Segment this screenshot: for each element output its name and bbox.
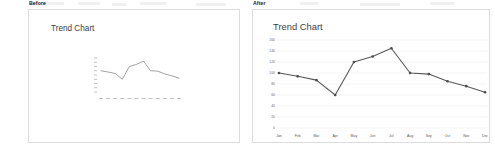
svg-text:May: May: [351, 134, 358, 138]
svg-text:Oct: Oct: [445, 134, 450, 138]
mini-trend-line: [101, 61, 179, 79]
before-chart-title: Trend Chart: [51, 24, 94, 33]
mini-x-axis-dots: [99, 98, 181, 99]
before-label: Before: [29, 0, 240, 7]
svg-text:160: 160: [269, 38, 275, 42]
svg-text:Apr: Apr: [332, 134, 338, 138]
before-panel: Before Trend Chart: [28, 0, 240, 143]
svg-text:0: 0: [273, 126, 275, 130]
svg-text:100: 100: [269, 71, 275, 75]
x-axis-tick-labels: JanFebMarAprMayJunJulAugSepOctNovDec: [276, 134, 488, 138]
svg-text:Jul: Jul: [389, 134, 394, 138]
before-mini-chart-svg: [91, 52, 183, 104]
after-panel: After Trend Chart 020406080100120140160 …: [252, 0, 490, 143]
trend-data-points: [278, 47, 487, 96]
after-trend-chart-svg: 020406080100120140160 JanFebMarAprMayJun…: [253, 10, 491, 144]
svg-text:Mar: Mar: [313, 134, 320, 138]
svg-text:80: 80: [271, 82, 275, 86]
after-trend-chart: 020406080100120140160 JanFebMarAprMayJun…: [253, 10, 491, 144]
svg-text:Dec: Dec: [482, 134, 488, 138]
svg-text:Sep: Sep: [426, 134, 432, 138]
before-mini-chart: [91, 52, 183, 104]
svg-text:Jun: Jun: [370, 134, 376, 138]
svg-text:20: 20: [271, 115, 275, 119]
y-axis-tick-labels: 020406080100120140160: [269, 38, 275, 130]
svg-text:40: 40: [271, 104, 275, 108]
svg-text:Feb: Feb: [295, 134, 301, 138]
svg-text:Nov: Nov: [463, 134, 469, 138]
mini-y-axis-dots: [94, 58, 97, 93]
after-chart-card: Trend Chart 020406080100120140160 JanFeb…: [252, 9, 490, 143]
chart-gridlines: [277, 40, 487, 128]
after-label: After: [253, 0, 490, 7]
svg-text:140: 140: [269, 49, 275, 53]
trend-line: [279, 48, 485, 95]
svg-text:Jan: Jan: [276, 134, 282, 138]
before-chart-card: Trend Chart: [28, 9, 240, 143]
svg-text:120: 120: [269, 60, 275, 64]
svg-text:Aug: Aug: [407, 134, 413, 138]
svg-text:60: 60: [271, 93, 275, 97]
